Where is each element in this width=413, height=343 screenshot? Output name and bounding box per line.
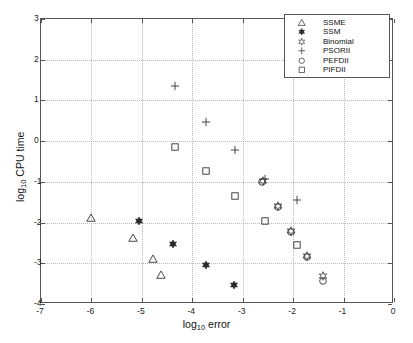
data-point-ssme [146,252,160,266]
gridline-vertical [91,19,92,302]
gridline-horizontal [41,100,392,101]
gridline-horizontal [41,263,392,264]
gridline-vertical [243,19,244,302]
y-tick [41,100,45,101]
x-tick [91,298,92,302]
legend-label: SSM [323,27,340,36]
y-tick [388,263,392,264]
data-point-pefdii [255,175,269,189]
figure: -7-6-5-4-3-2-10 -4-3-2-10123 log10 error… [0,0,413,343]
x-tick [192,19,193,23]
x-tick [142,298,143,302]
data-point-ssme [154,268,168,282]
data-point-pifdii [258,214,272,228]
data-point-ssm [132,214,146,228]
x-tick-label: -6 [87,306,95,316]
data-point-pifdii [199,164,213,178]
data-point-ssm [199,258,213,272]
y-tick [388,182,392,183]
data-point-psorii [199,115,213,129]
y-tick [41,19,45,20]
data-point-pefdii [284,225,298,239]
data-point-ssme [84,211,98,225]
y-tick-label: -1 [34,176,42,186]
data-point-pefdii [271,200,285,214]
data-point-psorii [228,143,242,157]
data-point-psorii [168,79,182,93]
data-point-ssme [126,231,140,245]
x-tick [192,298,193,302]
y-tick-label: 1 [34,94,39,104]
data-point-pefdii [300,250,314,264]
data-point-psorii [290,193,304,207]
y-tick-label: -4 [34,298,42,308]
legend-label: Binomial [323,37,354,46]
y-tick-label: 3 [34,13,39,23]
gridline-horizontal [41,141,392,142]
y-tick-label: -2 [34,217,42,227]
y-tick-label: 0 [34,135,39,145]
y-tick [388,223,392,224]
x-tick [142,19,143,23]
x-axis-title: log10 error [0,318,413,332]
x-tick [394,19,395,23]
legend-item-pifdii[interactable]: PIFDII [285,65,389,74]
legend-label: PSORII [323,46,350,55]
x-tick-label: -2 [288,306,296,316]
y-tick [388,304,392,305]
data-point-pifdii [290,238,304,252]
data-point-ssm [166,237,180,251]
legend: SSMESSMBinomialPSORIIPEFDIIPIFDII [284,14,390,78]
x-tick [293,298,294,302]
gridline-vertical [192,19,193,302]
x-tick-label: -3 [238,306,246,316]
y-tick [41,60,45,61]
x-tick [394,298,395,302]
legend-label: PIFDII [323,65,346,74]
x-tick-label: -5 [137,306,145,316]
legend-label: PEFDII [323,56,349,65]
x-tick [344,298,345,302]
y-tick [41,141,45,142]
y-tick [388,141,392,142]
y-tick-label: -3 [34,257,42,267]
x-tick-label: 0 [391,306,396,316]
data-point-ssm [227,278,241,292]
x-tick-label: -4 [188,306,196,316]
x-tick [243,298,244,302]
legend-label: SSME [323,18,346,27]
y-tick-label: 2 [34,54,39,64]
square-icon [289,64,315,75]
data-point-pefdii [316,274,330,288]
gridline-vertical [142,19,143,302]
data-point-pifdii [168,140,182,154]
x-tick [91,19,92,23]
y-axis-title: log10 CPU time [14,102,28,232]
y-tick [388,100,392,101]
data-point-pifdii [228,189,242,203]
x-tick-label: -1 [339,306,347,316]
gridline-horizontal [41,182,392,183]
x-tick [243,19,244,23]
